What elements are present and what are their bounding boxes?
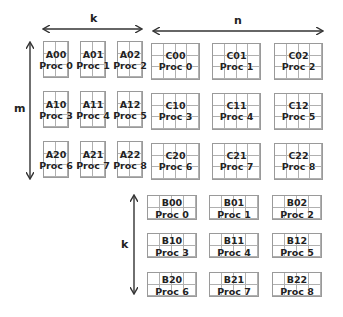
block-name: A01 [81, 49, 105, 60]
block-name: C00 [152, 50, 199, 61]
block-proc: Proc 0 [38, 60, 74, 71]
block-name: B12 [273, 235, 321, 246]
block-name: C02 [275, 50, 322, 61]
block-name: B10 [148, 235, 196, 246]
block-proc: Proc 2 [275, 61, 322, 72]
k-top-label: k [90, 13, 97, 24]
block-c00: C00 Proc 0 [151, 43, 200, 80]
block-b20: B20 Proc 6 [147, 272, 197, 297]
block-c21: C21 Proc 7 [212, 143, 261, 180]
block-proc: Proc 5 [275, 111, 322, 122]
block-c02: C02 Proc 2 [274, 43, 323, 80]
block-proc: Proc 7 [210, 286, 258, 297]
block-name: A00 [44, 49, 68, 60]
block-name: C22 [275, 150, 322, 161]
block-name: A11 [81, 99, 105, 110]
block-proc: Proc 8 [112, 160, 148, 171]
block-name: C11 [213, 100, 260, 111]
block-b01: B01 Proc 1 [209, 195, 259, 220]
block-proc: Proc 1 [210, 209, 258, 220]
block-proc: Proc 4 [213, 111, 260, 122]
block-proc: Proc 4 [210, 247, 258, 258]
block-proc: Proc 0 [152, 61, 199, 72]
block-name: C10 [152, 100, 199, 111]
block-a21: A21 Proc 7 [80, 141, 106, 178]
block-b00: B00 Proc 0 [147, 195, 197, 220]
block-proc: Proc 1 [213, 61, 260, 72]
k-left-label: k [121, 239, 128, 250]
block-name: A12 [118, 99, 142, 110]
block-c01: C01 Proc 1 [212, 43, 261, 80]
block-a12: A12 Proc 5 [117, 91, 143, 128]
block-proc: Proc 2 [112, 60, 148, 71]
block-a22: A22 Proc 8 [117, 141, 143, 178]
block-proc: Proc 7 [75, 160, 111, 171]
block-proc: Proc 3 [38, 110, 74, 121]
block-name: B00 [148, 197, 196, 208]
block-name: B22 [273, 274, 321, 285]
block-name: C21 [213, 150, 260, 161]
block-b21: B21 Proc 7 [209, 272, 259, 297]
block-b02: B02 Proc 2 [272, 195, 322, 220]
block-proc: Proc 4 [75, 110, 111, 121]
block-proc: Proc 7 [213, 161, 260, 172]
block-proc: Proc 1 [75, 60, 111, 71]
block-a02: A02 Proc 2 [117, 41, 143, 78]
block-a11: A11 Proc 4 [80, 91, 106, 128]
block-a01: A01 Proc 1 [80, 41, 106, 78]
block-c10: C10 Proc 3 [151, 93, 200, 130]
block-c12: C12 Proc 5 [274, 93, 323, 130]
block-b22: B22 Proc 8 [272, 272, 322, 297]
block-c11: C11 Proc 4 [212, 93, 261, 130]
block-proc: Proc 5 [273, 247, 321, 258]
block-b12: B12 Proc 5 [272, 233, 322, 258]
block-name: C01 [213, 50, 260, 61]
block-b10: B10 Proc 3 [147, 233, 197, 258]
block-proc: Proc 8 [273, 286, 321, 297]
block-a00: A00 Proc 0 [43, 41, 69, 78]
block-proc: Proc 0 [148, 209, 196, 220]
block-proc: Proc 3 [152, 111, 199, 122]
block-proc: Proc 6 [152, 161, 199, 172]
block-a10: A10 Proc 3 [43, 91, 69, 128]
block-a20: A20 Proc 6 [43, 141, 69, 178]
block-c22: C22 Proc 8 [274, 143, 323, 180]
block-name: B01 [210, 197, 258, 208]
block-name: A21 [81, 149, 105, 160]
block-name: B11 [210, 235, 258, 246]
block-proc: Proc 6 [38, 160, 74, 171]
block-name: C12 [275, 100, 322, 111]
n-top-label: n [234, 15, 242, 26]
block-c20: C20 Proc 6 [151, 143, 200, 180]
block-name: C20 [152, 150, 199, 161]
block-name: A22 [118, 149, 142, 160]
block-name: B20 [148, 274, 196, 285]
block-proc: Proc 8 [275, 161, 322, 172]
block-proc: Proc 5 [112, 110, 148, 121]
block-name: A10 [44, 99, 68, 110]
block-proc: Proc 3 [148, 247, 196, 258]
block-name: B02 [273, 197, 321, 208]
block-name: B21 [210, 274, 258, 285]
block-proc: Proc 2 [273, 209, 321, 220]
m-left-label: m [14, 103, 25, 114]
block-proc: Proc 6 [148, 286, 196, 297]
block-b11: B11 Proc 4 [209, 233, 259, 258]
block-name: A20 [44, 149, 68, 160]
block-name: A02 [118, 49, 142, 60]
